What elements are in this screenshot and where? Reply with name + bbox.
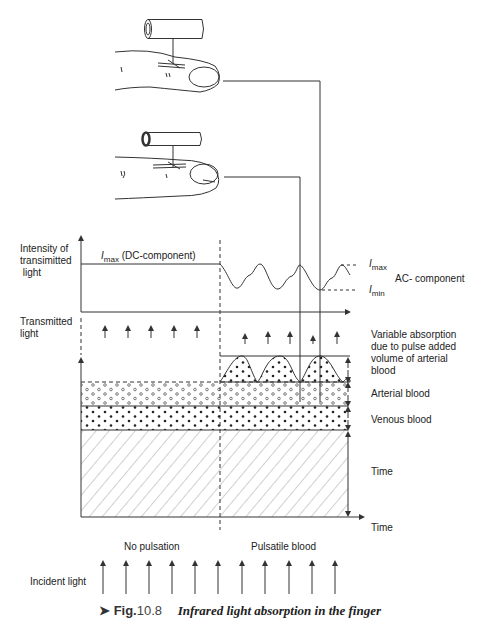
no-pulsation-label: No pulsation — [124, 541, 180, 553]
transmitted-line1: Transmitted — [20, 316, 72, 328]
tissue-layer — [81, 430, 348, 517]
pulsatile-region — [220, 356, 350, 382]
variable-absorption-label: Variable absorption due to pulse added v… — [371, 329, 456, 377]
imax-right-sub: max — [372, 263, 387, 272]
figure-caption: ➤ Fig.10.8 Infrared light absorption in … — [99, 603, 381, 619]
finger-illustration-top — [115, 20, 320, 403]
var-abs-line1: Variable absorption — [371, 329, 456, 341]
imin-right-sub: min — [372, 289, 385, 298]
venous-blood-label: Venous blood — [371, 414, 432, 426]
incident-light-label: Incident light — [30, 576, 86, 588]
tissue-layers — [81, 356, 362, 517]
arterial-blood-layer — [81, 382, 348, 406]
imin-label: Imin — [369, 284, 385, 300]
pulsatile-blood-label: Pulsatile blood — [251, 541, 316, 553]
var-abs-line4: blood — [371, 365, 456, 377]
intensity-label-line3: light — [20, 267, 72, 279]
incident-light-arrows — [103, 563, 335, 594]
imax-dc-label: Imax (DC-component) — [101, 250, 196, 266]
caption-marker: ➤ — [99, 603, 110, 618]
caption-title: Infrared light absorption in the finger — [178, 603, 381, 618]
imax-label: Imax — [369, 258, 387, 274]
caption-fig-label: Fig. — [114, 603, 137, 618]
var-abs-line2: due to pulse added — [371, 341, 456, 353]
var-abs-line3: volume of arterial — [371, 353, 456, 365]
intensity-axis-label: Intensity of transimitted light — [20, 243, 72, 279]
transmitted-light-label: Transmitted light — [20, 316, 72, 340]
venous-blood-layer — [81, 406, 348, 430]
imax-sub: max — [104, 255, 119, 264]
ac-component-label: AC- component — [395, 273, 464, 285]
dc-component-text: (DC-component) — [119, 250, 196, 261]
transmitted-line2: light — [20, 328, 72, 340]
ac-waveform — [220, 264, 350, 290]
intensity-label-line1: Intensity of — [20, 243, 72, 255]
caption-number: 10.8 — [137, 603, 162, 618]
intensity-label-line2: transimitted — [20, 255, 72, 267]
arterial-blood-label: Arterial blood — [371, 388, 430, 400]
diagram-canvas — [0, 0, 482, 629]
time-axis-label: Time — [371, 522, 393, 534]
time-inner-label: Time — [371, 466, 393, 478]
transmitted-light-arrows — [105, 328, 337, 344]
